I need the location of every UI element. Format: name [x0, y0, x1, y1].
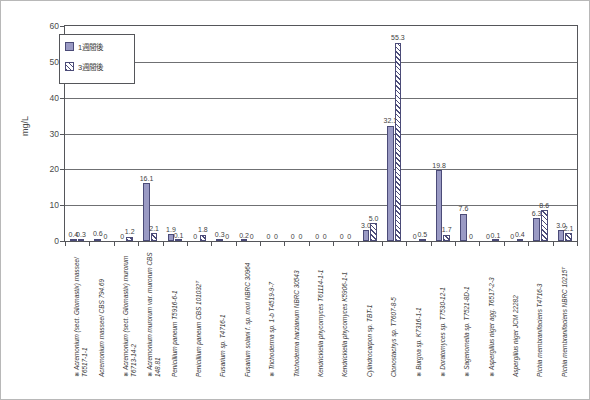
bar-week1: [533, 218, 540, 241]
x-axis-category-label: Kendrickiella phycomyces T61114-1-1: [317, 245, 325, 377]
x-tick-mark: [553, 242, 554, 246]
x-tick-mark: [236, 242, 237, 246]
x-tick-mark: [431, 242, 432, 246]
bar-week3: [370, 223, 377, 241]
x-tick-mark: [284, 242, 285, 246]
x-tick-mark: [333, 242, 334, 246]
bar-week3: [175, 239, 182, 241]
legend-item-week1: 1週間後: [65, 41, 129, 52]
legend-swatch-hatch-icon: [65, 62, 74, 71]
bar-series-layer: 0.40.30.6001.216.12.11.90.101.80.300.200…: [65, 26, 577, 241]
x-tick-mark: [114, 242, 115, 246]
x-axis-category-label: ※ Trichoderma sp. 1-b T4519-9-7: [268, 245, 276, 377]
x-tick-mark: [260, 242, 261, 246]
x-axis-category-label: Kendrickiella phycomyces K5906-1-1: [341, 245, 349, 377]
x-tick-mark: [163, 242, 164, 246]
x-axis-category-label: Pichia membranifaciens NBRC 10215ᵀ: [560, 245, 568, 377]
x-label-slot: Pichia membranifaciens NBRC 10215ᵀ: [565, 247, 590, 261]
bar-week3: [419, 239, 426, 241]
x-tick-mark: [455, 242, 456, 246]
legend-label-week3: 3週間後: [78, 61, 103, 72]
x-axis-category-label: ※ Acremonium (sect. Gliomastix) massee/ …: [73, 245, 89, 377]
bar-value-label: 1.2: [119, 228, 141, 235]
x-axis-category-label: ※ Sagenomella sp. T7521-8D-1: [463, 245, 471, 377]
x-tick-mark: [528, 242, 529, 246]
x-tick-mark: [406, 242, 407, 246]
y-tick-label: 30: [19, 130, 59, 139]
bar-week3: [541, 210, 548, 241]
bar-value-label: 0.4: [509, 231, 531, 238]
x-axis-category-label: ※ Burgoa sp. K7316-1-1: [414, 245, 422, 377]
x-tick-mark: [382, 242, 383, 246]
bar-week1: [363, 230, 370, 241]
legend: 1週間後 3週間後: [59, 34, 135, 84]
bar-value-label: 2.1: [558, 225, 580, 232]
bar-value-label: 16.1: [136, 175, 158, 182]
bar-value-label: 8.6: [533, 202, 555, 209]
bar-week1: [387, 126, 394, 241]
x-tick-mark: [89, 242, 90, 246]
bar-value-label: 7.6: [452, 205, 474, 212]
bar-value-label: 1.7: [436, 226, 458, 233]
bar-week3: [126, 237, 133, 241]
x-axis-category-label: Acremonium massee/ CBS 794.69: [97, 245, 105, 377]
y-tick-label: 20: [19, 165, 59, 174]
chart-figure: mg/L 0102030405060 0.40.30.6001.216.12.1…: [0, 0, 590, 400]
x-axis-labels: ※ Acremonium (sect. Gliomastix) massee/ …: [65, 247, 577, 379]
x-tick-mark: [187, 242, 188, 246]
x-axis-category-label: ※ Acremonium murorum var. murorum CBS 14…: [146, 245, 162, 377]
bar-week3: [395, 43, 402, 241]
bar-week3: [517, 239, 524, 241]
x-axis-category-label: Clonostachys sp. T7607-8-5: [390, 245, 398, 377]
x-tick-mark: [358, 242, 359, 246]
x-axis-category-label: ※ Acremonium (sect. Gliomastix) murorum …: [121, 245, 137, 377]
x-axis-category-label: ※ Doratomyces sp. T7530-12-1: [438, 245, 446, 377]
x-axis-category-label: Cylindrocarpon sp. TBT-1: [365, 245, 373, 377]
bar-week3: [443, 235, 450, 241]
x-tick-mark: [138, 242, 139, 246]
bar-week3: [492, 239, 499, 241]
y-tick-label: 60: [19, 22, 59, 31]
y-tick-label: 50: [19, 58, 59, 67]
bar-value-label: 5.0: [363, 215, 385, 222]
y-tick-label: 10: [19, 201, 59, 210]
x-axis-category-label: Penicillium paneum CBS 101032ᵀ: [195, 245, 203, 377]
x-axis-category-label: Penicillium paneum T5916-6-1: [170, 245, 178, 377]
bar-value-label: 19.8: [428, 162, 450, 169]
bar-week1: [70, 239, 77, 241]
x-tick-mark: [211, 242, 212, 246]
x-tick-mark: [65, 242, 66, 246]
bar-value-label: 55.3: [387, 34, 409, 41]
bar-week3: [78, 239, 85, 241]
x-tick-mark: [479, 242, 480, 246]
bar-week3: [151, 233, 158, 241]
y-tick-label: 0: [19, 237, 59, 246]
bar-value-label: 0: [338, 233, 360, 240]
x-axis-category-label: Fusarium sp. T4716-1: [219, 245, 227, 377]
bar-value-label: 0.5: [411, 231, 433, 238]
bar-week3: [565, 233, 572, 241]
x-axis-category-label: Fusarium solani f. sp. mori NBRC 30964: [243, 245, 251, 377]
x-tick-mark: [577, 242, 578, 246]
x-axis-category-label: ※ Aspergillus niger agg. T6517-2-3: [487, 245, 495, 377]
legend-swatch-solid-icon: [65, 42, 74, 51]
x-axis-category-label: Pichia membranifaciens T4716-3: [536, 245, 544, 377]
bar-week1: [143, 183, 150, 241]
bar-week3: [200, 235, 207, 241]
x-tick-mark: [504, 242, 505, 246]
x-tick-mark: [309, 242, 310, 246]
x-axis-category-label: Aspergillus niger JCM 22282: [512, 245, 520, 377]
y-axis-label: mg/L: [20, 96, 30, 156]
legend-item-week3: 3週間後: [65, 61, 129, 72]
legend-label-week1: 1週間後: [78, 41, 103, 52]
y-tick-label: 40: [19, 94, 59, 103]
x-axis-category-label: Trichoderma harzianum NBRC 30543: [292, 245, 300, 377]
